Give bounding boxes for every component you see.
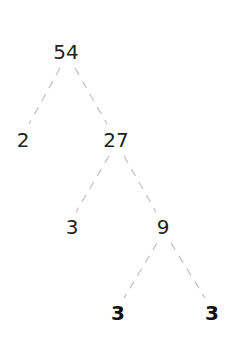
edge-9-3b bbox=[171, 243, 205, 298]
node-factor-27: 27 bbox=[103, 130, 128, 150]
tree-edges bbox=[0, 0, 237, 350]
edge-54-27 bbox=[75, 68, 107, 124]
edge-27-9 bbox=[124, 156, 156, 212]
node-factor-3: 3 bbox=[66, 217, 79, 237]
node-prime-leaf-3: 3 bbox=[111, 303, 125, 323]
factor-tree: 54 2 27 3 9 3 3 bbox=[0, 0, 237, 350]
edge-9-3a bbox=[124, 243, 157, 298]
edge-54-2 bbox=[29, 68, 60, 124]
node-root-54: 54 bbox=[53, 42, 78, 62]
node-factor-9: 9 bbox=[157, 217, 170, 237]
node-prime-leaf-3: 3 bbox=[205, 303, 219, 323]
edge-27-3 bbox=[76, 156, 109, 212]
node-factor-2: 2 bbox=[17, 130, 30, 150]
